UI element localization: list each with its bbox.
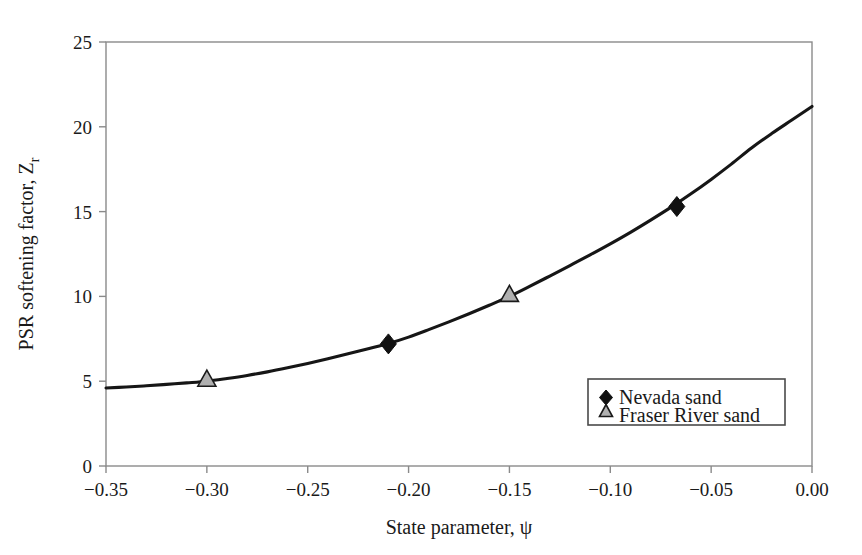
figure-background [0,0,862,555]
legend-label-fraser-river-sand: Fraser River sand [619,404,760,426]
y-tick-label: 25 [73,32,92,53]
x-tick-label: 0.00 [795,479,828,500]
legend: Nevada sand Fraser River sand [588,379,785,426]
x-tick-label: −0.10 [588,479,632,500]
y-tick-label: 5 [83,371,93,392]
x-tick-label: −0.35 [84,479,128,500]
x-tick-label: −0.15 [487,479,531,500]
x-tick-label: −0.05 [689,479,733,500]
x-tick-label: −0.30 [185,479,229,500]
x-axis-title: State parameter, ψ [386,516,533,539]
y-tick-label: 0 [83,456,93,477]
chart-figure: 0510152025 −0.35−0.30−0.25−0.20−0.15−0.1… [0,0,862,555]
y-tick-label: 15 [73,202,92,223]
legend-entry-fraser-river-sand: Fraser River sand [600,404,761,426]
y-tick-label: 10 [73,286,92,307]
y-axis-title-text: PSR softening factor, Z [15,162,38,350]
x-tick-label: −0.25 [286,479,330,500]
y-tick-label: 20 [73,117,92,138]
chart-svg: 0510152025 −0.35−0.30−0.25−0.20−0.15−0.1… [0,0,862,555]
y-axis-title-subscript: r [27,157,42,162]
x-tick-label: −0.20 [387,479,431,500]
